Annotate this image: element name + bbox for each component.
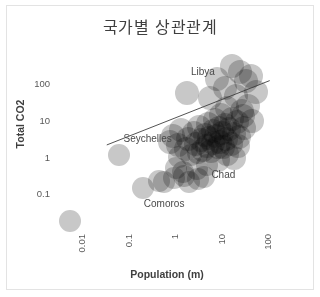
- point-label: Comoros: [144, 197, 185, 208]
- chart-container: 국가별 상관관계 Total CO2 1001010.1 0.010.11101…: [0, 0, 320, 297]
- plot-area: LibyaSeychellesComorosChad: [54, 55, 280, 230]
- x-tick-label: 1: [169, 234, 180, 239]
- y-axis-ticks: 1001010.1: [16, 55, 50, 230]
- x-tick-label: 10: [216, 234, 227, 245]
- scatter-point: [175, 81, 199, 105]
- x-tick-label: 100: [262, 234, 273, 250]
- point-label: Seychelles: [124, 133, 172, 144]
- y-tick-label: 10: [39, 115, 50, 126]
- y-tick-label: 1: [45, 151, 50, 162]
- x-tick-label: 0.1: [123, 234, 134, 247]
- scatter-point: [108, 144, 130, 166]
- scatter-point: [231, 104, 255, 128]
- point-label: Chad: [211, 169, 235, 180]
- x-tick-label: 0.01: [76, 234, 87, 253]
- chart-title: 국가별 상관관계: [0, 14, 320, 38]
- x-axis-title: Population (m): [54, 268, 280, 280]
- x-axis-ticks: 0.010.1110100: [54, 234, 280, 266]
- y-tick-label: 0.1: [37, 188, 50, 199]
- scatter-point: [172, 161, 194, 183]
- point-label: Libya: [191, 65, 215, 76]
- scatter-point: [59, 210, 81, 232]
- y-tick-label: 100: [34, 78, 50, 89]
